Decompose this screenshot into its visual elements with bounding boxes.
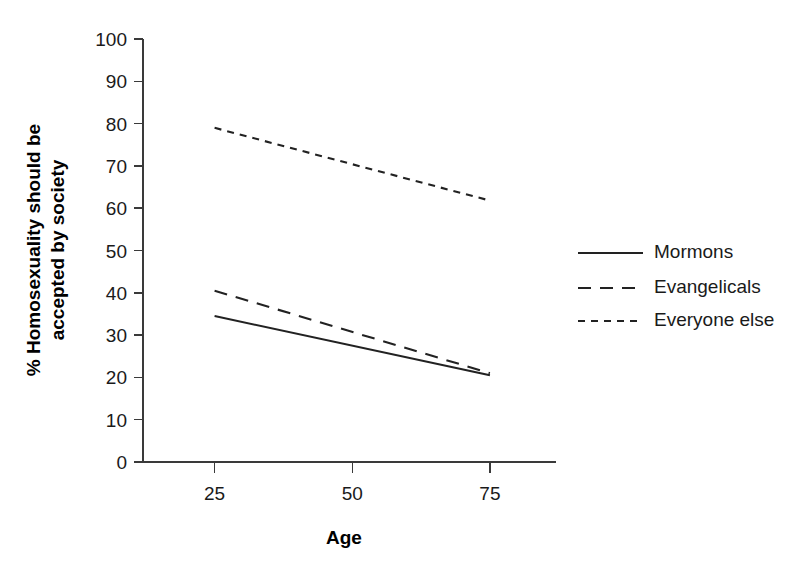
y-axis-ticks bbox=[134, 39, 143, 462]
y-tick-label-70: 70 bbox=[106, 156, 127, 177]
y-tick-label-20: 20 bbox=[106, 367, 127, 388]
y-tick-label-30: 30 bbox=[106, 325, 127, 346]
y-tick-label-60: 60 bbox=[106, 198, 127, 219]
y-axis-tick-labels: 0102030405060708090100 bbox=[95, 29, 127, 473]
y-tick-label-90: 90 bbox=[106, 71, 127, 92]
y-axis-title-line2: accepted by society bbox=[47, 159, 68, 340]
y-tick-label-0: 0 bbox=[116, 452, 127, 473]
y-axis-title-line1: % Homosexuality should be bbox=[23, 124, 44, 376]
x-tick-label-50: 50 bbox=[342, 483, 363, 504]
legend: MormonsEvangelicalsEveryone else bbox=[578, 241, 774, 330]
y-tick-label-80: 80 bbox=[106, 114, 127, 135]
x-axis-title: Age bbox=[326, 527, 362, 548]
y-tick-label-50: 50 bbox=[106, 241, 127, 262]
y-tick-label-100: 100 bbox=[95, 29, 127, 50]
legend-label-evangelicals: Evangelicals bbox=[654, 276, 761, 297]
chart-container: 0102030405060708090100 255075 Age % Homo… bbox=[0, 0, 804, 568]
x-axis-ticks bbox=[215, 462, 490, 473]
x-tick-label-25: 25 bbox=[204, 483, 225, 504]
legend-label-mormons: Mormons bbox=[654, 241, 733, 262]
x-axis-tick-labels: 255075 bbox=[204, 483, 500, 504]
y-tick-label-40: 40 bbox=[106, 283, 127, 304]
y-axis: 0102030405060708090100 bbox=[95, 29, 143, 473]
series-line-evangelicals bbox=[215, 291, 490, 373]
x-axis: 255075 bbox=[143, 462, 556, 504]
series-line-everyone-else bbox=[215, 128, 490, 201]
line-chart: 0102030405060708090100 255075 Age % Homo… bbox=[0, 0, 804, 568]
x-tick-label-75: 75 bbox=[479, 483, 500, 504]
y-axis-title: % Homosexuality should be accepted by so… bbox=[23, 124, 68, 376]
plot-series-group bbox=[215, 128, 490, 375]
legend-label-everyone-else: Everyone else bbox=[654, 309, 774, 330]
y-tick-label-10: 10 bbox=[106, 410, 127, 431]
series-line-mormons bbox=[215, 316, 490, 375]
